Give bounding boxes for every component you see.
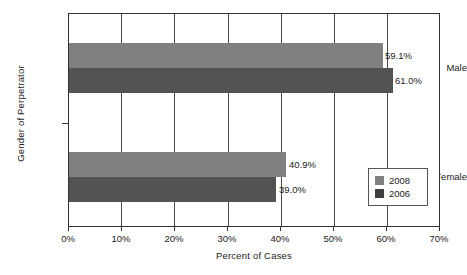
bar-female-2006 [69, 177, 276, 202]
bar-male-2008 [69, 43, 383, 68]
data-label-male-2006: 61.0% [395, 76, 422, 86]
legend-label-2006: 2006 [389, 189, 410, 199]
x-tick-label-20: 20% [154, 233, 194, 244]
x-tick-label-70: 70% [419, 233, 459, 244]
legend-swatch-2006-icon [375, 189, 384, 198]
x-tick-label-40: 40% [260, 233, 300, 244]
x-axis-title: Percent of Cases [68, 250, 440, 261]
x-tick-70 [439, 227, 440, 231]
data-label-male-2008: 59.1% [385, 51, 412, 61]
x-tick-60 [386, 227, 387, 231]
x-tick-0 [68, 227, 69, 231]
x-tick-label-60: 60% [366, 233, 406, 244]
x-tick-label-50: 50% [313, 233, 353, 244]
x-tick-50 [333, 227, 334, 231]
legend-swatch-2008-icon [375, 176, 384, 185]
bar-chart: Gender of Perpetrator Male Female 59.1% … [0, 0, 467, 275]
x-tick-40 [280, 227, 281, 231]
y-axis-title: Gender of Perpetrator [15, 34, 26, 194]
x-tick-30 [227, 227, 228, 231]
chart-legend: 2008 2006 [368, 168, 428, 206]
bar-female-2008 [69, 152, 286, 177]
legend-label-2008: 2008 [389, 176, 410, 186]
x-tick-label-10: 10% [101, 233, 141, 244]
x-tick-label-30: 30% [207, 233, 247, 244]
data-label-female-2006: 39.0% [279, 185, 306, 195]
x-tick-label-0: 0% [48, 233, 88, 244]
bar-male-2006 [69, 68, 393, 93]
data-label-female-2008: 40.9% [289, 160, 316, 170]
legend-item-2006: 2006 [375, 187, 421, 200]
legend-item-2008: 2008 [375, 174, 421, 187]
x-tick-20 [174, 227, 175, 231]
x-tick-10 [121, 227, 122, 231]
